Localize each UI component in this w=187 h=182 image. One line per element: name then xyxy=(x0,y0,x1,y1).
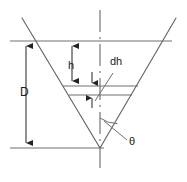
diagram-canvas: D h dh θ xyxy=(0,0,187,182)
notch-angle-label: θ xyxy=(129,135,135,147)
vnotch-weir-diagram: D h dh θ xyxy=(0,0,187,182)
vnotch-right-side xyxy=(100,18,176,148)
notch-angle: θ xyxy=(100,118,135,147)
depth-label: D xyxy=(20,85,29,99)
dh-leader-line xyxy=(95,73,113,101)
differential-head-dimension: dh xyxy=(92,55,122,108)
head-label: h xyxy=(68,59,74,71)
depth-dimension: D xyxy=(20,46,29,143)
differential-head-label: dh xyxy=(110,55,122,67)
head-dimension: h xyxy=(68,46,74,81)
vnotch-outline xyxy=(22,18,176,148)
vnotch-left-side xyxy=(22,18,100,148)
